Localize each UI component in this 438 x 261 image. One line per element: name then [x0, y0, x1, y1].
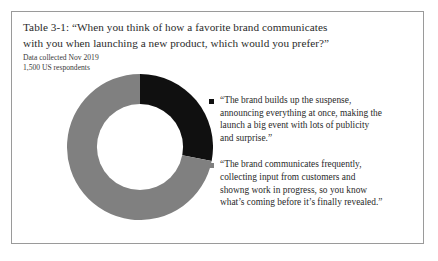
figure-subtitle: Data collected Nov 2019 1,500 US respond…	[23, 53, 223, 73]
donut-hole	[97, 104, 183, 190]
donut-chart	[67, 74, 213, 220]
subtitle-line-collection-date: Data collected Nov 2019	[23, 53, 223, 63]
figure-caption: Table 3-1: “When you think of how a favo…	[23, 20, 341, 51]
legend-label-line-3: launch a big event with lots of publicit…	[220, 119, 425, 132]
legend-swatch-black-icon	[209, 99, 214, 104]
legend-label-line-1: “The brand communicates frequently,	[220, 158, 425, 171]
chart-legend: “The brand builds up the suspense, annou…	[209, 94, 425, 223]
legend-item-suspense-option: “The brand builds up the suspense, annou…	[209, 94, 425, 144]
legend-swatch-gray-icon	[209, 163, 214, 168]
caption-line-1: Table 3-1: “When you think of how a favo…	[23, 20, 341, 36]
legend-label-line-1: “The brand builds up the suspense,	[220, 94, 425, 107]
caption-line-2: with you when launching a new product, w…	[23, 36, 341, 52]
subtitle-line-respondents: 1,500 US respondents	[23, 63, 223, 73]
legend-label-line-2: announcing everything at once, making th…	[220, 107, 425, 120]
legend-item-frequent-communication-option: “The brand communicates frequently, coll…	[209, 158, 425, 208]
figure-frame: Table 3-1: “When you think of how a favo…	[11, 11, 424, 244]
legend-label-line-4: what’s coming before it’s finally reveal…	[220, 196, 425, 209]
legend-label-line-4: and surprise.”	[220, 132, 425, 145]
legend-label-line-3: showng work in progress, so you know	[220, 184, 425, 197]
legend-label-line-2: collecting input from customers and	[220, 171, 425, 184]
